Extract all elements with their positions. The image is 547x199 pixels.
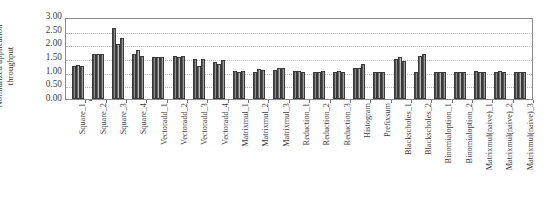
x-axis-category-label: Square_1 xyxy=(78,103,87,198)
x-axis-category-label: Matrixmul_2 xyxy=(261,103,270,198)
bar xyxy=(140,56,144,99)
bar xyxy=(462,72,466,99)
x-axis-category-labels: Square_1Square_2Square_3Square_4Vectorad… xyxy=(65,103,533,198)
bar-group xyxy=(450,19,470,99)
x-axis-category-label: Reduction_1 xyxy=(302,103,311,198)
y-axis-tick-label: 2.50 xyxy=(46,26,62,35)
bar-group xyxy=(189,19,209,99)
bar-group xyxy=(209,19,229,99)
x-axis-category-label: Matrixmul_3 xyxy=(282,103,291,198)
bar-group xyxy=(490,19,510,99)
bar-group xyxy=(329,19,349,99)
bar-group xyxy=(249,19,269,99)
y-axis-title: Normalized application throughput xyxy=(0,11,24,121)
x-axis-category-label: Prefixsum xyxy=(383,103,392,198)
x-axis-category-label: Matrixmul(naive)_3 xyxy=(526,103,535,198)
y-axis-tick-labels: 0.000.501.001.502.002.503.00 xyxy=(26,12,64,106)
bar xyxy=(261,70,265,99)
y-axis-tick-label: 0.50 xyxy=(46,80,62,89)
bar xyxy=(221,60,225,99)
bar xyxy=(120,38,124,99)
y-axis-tick-label: 3.00 xyxy=(46,12,62,21)
x-axis-category-label: Reduction_2 xyxy=(322,103,331,198)
x-axis-category-label: Matrixmul_1 xyxy=(241,103,250,198)
bar xyxy=(381,72,385,99)
bar xyxy=(100,54,104,99)
bar-group xyxy=(369,19,389,99)
bar-group xyxy=(410,19,430,99)
x-axis-category-label: Blackscholes_2 xyxy=(424,103,433,198)
bar xyxy=(281,68,285,99)
x-axis-category-label: Histogram xyxy=(363,103,372,198)
bar-group xyxy=(229,19,249,99)
x-axis-category-label: Matrixmul(naive)_2 xyxy=(505,103,514,198)
x-axis-category-label: Binomialoption_2 xyxy=(465,103,474,198)
y-axis-tick-label: 0.00 xyxy=(46,94,62,103)
plot-area xyxy=(65,18,533,100)
bar xyxy=(241,71,245,99)
bar-group xyxy=(88,19,108,99)
y-axis-tick-label: 1.00 xyxy=(46,67,62,76)
bar-group xyxy=(128,19,148,99)
bar xyxy=(181,56,185,99)
bar-group xyxy=(269,19,289,99)
bar-group xyxy=(510,19,530,99)
bar-group xyxy=(430,19,450,99)
y-axis-tick-label: 2.00 xyxy=(46,39,62,48)
bar xyxy=(341,72,345,99)
bar-group xyxy=(470,19,490,99)
x-axis-category-label: Vectoradd_1 xyxy=(160,103,169,198)
x-axis-category-label: Square_4 xyxy=(139,103,148,198)
bar xyxy=(160,57,164,99)
bar xyxy=(321,71,325,99)
bar xyxy=(80,66,84,99)
bar-group xyxy=(68,19,88,99)
bar-group xyxy=(108,19,128,99)
bar-groups xyxy=(66,19,532,99)
bar xyxy=(361,64,365,99)
x-axis-category-label: Binomialoption_1 xyxy=(444,103,453,198)
x-axis-category-label: Vectoradd_2 xyxy=(180,103,189,198)
bar-group xyxy=(148,19,168,99)
bar-group xyxy=(390,19,410,99)
y-axis-title-line2: throughput xyxy=(5,11,16,121)
bar xyxy=(522,72,526,99)
bar-chart: Normalized application throughput 0.000.… xyxy=(0,0,547,199)
bar xyxy=(301,72,305,99)
x-axis-category-label: Reduction_3 xyxy=(343,103,352,198)
x-axis-category-label: Vectoradd_4 xyxy=(221,103,230,198)
x-axis-category-label: Blackscholes_1 xyxy=(404,103,413,198)
x-axis-category-label: Square_2 xyxy=(99,103,108,198)
x-axis-category-label: Square_3 xyxy=(119,103,128,198)
bar-group xyxy=(168,19,188,99)
bar xyxy=(422,54,426,99)
bar xyxy=(482,72,486,99)
y-axis-tick-label: 1.50 xyxy=(46,53,62,62)
bar-group xyxy=(309,19,329,99)
x-axis-category-label: Vectoradd_3 xyxy=(200,103,209,198)
bar-group xyxy=(289,19,309,99)
x-axis-category-label: Matrixmul(naive)_1 xyxy=(485,103,494,198)
bar xyxy=(402,61,406,99)
bar xyxy=(442,72,446,99)
bar-group xyxy=(349,19,369,99)
bar xyxy=(201,59,205,99)
bar xyxy=(502,72,506,99)
